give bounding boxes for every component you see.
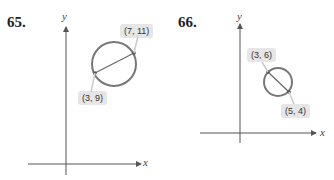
leader-65-a bbox=[91, 73, 95, 92]
leader-65-b bbox=[134, 36, 138, 53]
diameter-65 bbox=[95, 53, 134, 73]
diameter-66 bbox=[268, 72, 289, 92]
leader-66-b bbox=[289, 92, 294, 104]
leader-66-a bbox=[262, 62, 268, 72]
circle-65 bbox=[92, 42, 136, 86]
diagram-canvas bbox=[0, 0, 334, 180]
